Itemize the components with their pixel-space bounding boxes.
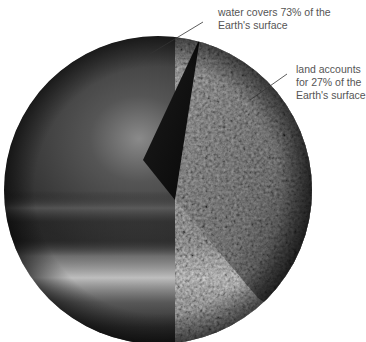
land-label-line-1: land accounts <box>296 63 366 76</box>
land-label: land accounts for 27% of the Earth's sur… <box>296 63 366 102</box>
water-label-line-2: Earth's surface <box>218 19 331 32</box>
earth-sphere-graphic <box>0 0 366 342</box>
earth-diagram: water covers 73% of the Earth's surface … <box>0 0 366 342</box>
water-label-line-1: water covers 73% of the <box>218 6 331 19</box>
land-label-line-3: Earth's surface <box>296 89 366 102</box>
land-label-line-2: for 27% of the <box>296 76 366 89</box>
water-label: water covers 73% of the Earth's surface <box>218 6 331 32</box>
